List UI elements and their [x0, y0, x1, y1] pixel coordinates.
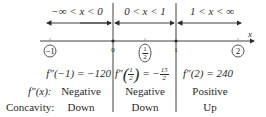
point-0	[111, 39, 114, 42]
interval-label-2: 0 < x < 1	[124, 5, 166, 17]
eval-half-res-den: 2	[160, 75, 169, 82]
point-1	[174, 39, 177, 42]
test-point-half: 12	[142, 46, 148, 61]
eval-half-eq: = −	[142, 67, 160, 79]
concavity-interval-3: Up	[203, 101, 216, 113]
tick-label-0: 0	[111, 44, 115, 56]
concavity-interval-1: Down	[68, 101, 95, 113]
x-axis-label: x	[248, 28, 252, 40]
sign-interval-2: Negative	[125, 85, 165, 97]
tick-label-1: 1	[174, 44, 178, 56]
sign-interval-3: Positive	[192, 85, 227, 97]
test-point-2: 2	[236, 45, 241, 57]
interval-label-3: 1 < x < ∞	[190, 5, 234, 17]
number-line-diagram	[0, 0, 266, 117]
half-den: 2	[142, 54, 148, 61]
test-point-neg1: −1	[45, 45, 55, 57]
concavity-row-label: Concavity:	[6, 101, 54, 113]
interval-label-1: −∞ < x < 0	[51, 5, 103, 17]
eval-half: f″(12) = −152	[115, 67, 169, 82]
concavity-interval-2: Down	[132, 101, 159, 113]
eval-2: f″(2) = 240	[183, 67, 233, 79]
eval-half-func: f″	[115, 67, 123, 79]
eval-neg1: f″(−1) = −120	[46, 67, 111, 79]
sign-interval-1: Negative	[61, 85, 101, 97]
sign-row-label: f″(x):	[28, 85, 52, 97]
